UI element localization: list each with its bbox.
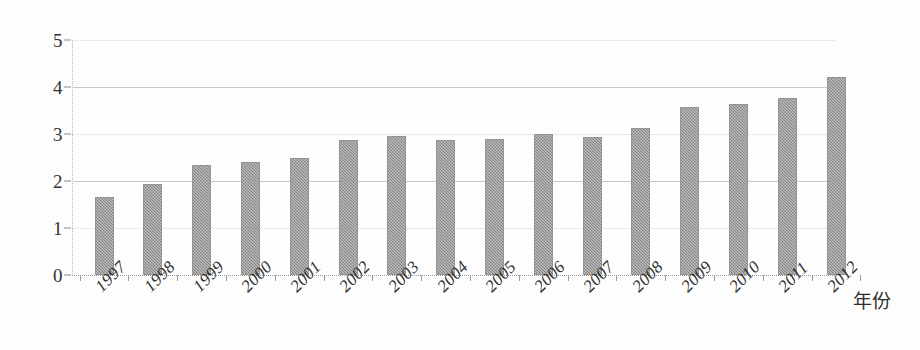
bar-2005[interactable] xyxy=(485,139,504,275)
x-tick-mark xyxy=(128,275,129,281)
y-tick-mark xyxy=(64,181,71,182)
y-tick-mark xyxy=(64,134,71,135)
x-tick-mark xyxy=(665,275,666,281)
x-tick-mark xyxy=(324,275,325,281)
bar-2002[interactable] xyxy=(339,140,358,275)
y-tick-mark xyxy=(64,40,71,41)
x-tick-mark xyxy=(519,275,520,281)
y-axis-tick-label: 1 xyxy=(53,219,63,238)
x-tick-mark xyxy=(177,275,178,281)
y-axis-tick-label: 2 xyxy=(53,172,63,191)
x-tick-mark xyxy=(616,275,617,281)
y-axis-tick-label: 3 xyxy=(53,125,63,144)
bar-2007[interactable] xyxy=(583,137,602,275)
bar-1999[interactable] xyxy=(192,165,211,275)
x-axis-title: 年份 xyxy=(853,292,891,311)
bar-2010[interactable] xyxy=(729,104,748,275)
bar-chart: 012345 年份 199719981999200020012002200320… xyxy=(0,0,920,350)
y-tick-mark xyxy=(64,275,71,276)
plot-area: 012345 xyxy=(72,40,835,275)
x-tick-mark xyxy=(275,275,276,281)
x-tick-mark xyxy=(860,275,861,281)
gridline-3 xyxy=(72,134,835,135)
y-tick-mark xyxy=(64,87,71,88)
x-tick-mark xyxy=(568,275,569,281)
y-tick-mark xyxy=(64,228,71,229)
y-axis-tick-label: 4 xyxy=(53,78,63,97)
bar-2011[interactable] xyxy=(778,98,797,275)
x-tick-mark xyxy=(763,275,764,281)
bar-2008[interactable] xyxy=(631,128,650,275)
bar-2006[interactable] xyxy=(534,134,553,275)
bar-2000[interactable] xyxy=(241,162,260,275)
bar-2012[interactable] xyxy=(827,77,846,275)
x-tick-mark xyxy=(226,275,227,281)
x-tick-mark xyxy=(421,275,422,281)
y-axis-tick-label: 5 xyxy=(53,31,63,50)
x-tick-mark xyxy=(470,275,471,281)
bar-2001[interactable] xyxy=(290,158,309,275)
y-axis-tick-label: 0 xyxy=(53,266,63,285)
bar-2003[interactable] xyxy=(387,136,406,275)
x-tick-mark xyxy=(812,275,813,281)
bar-2004[interactable] xyxy=(436,140,455,275)
x-tick-mark xyxy=(372,275,373,281)
gridline-4 xyxy=(72,87,835,88)
x-tick-mark xyxy=(714,275,715,281)
bar-2009[interactable] xyxy=(680,107,699,275)
gridline-5 xyxy=(72,40,835,41)
x-tick-mark xyxy=(80,275,81,281)
